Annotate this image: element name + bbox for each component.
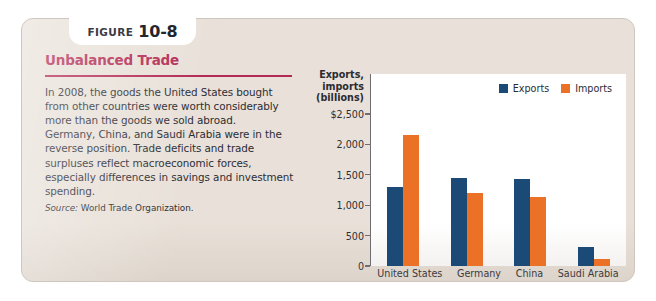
y-tick-mark-2 bbox=[365, 174, 370, 175]
bar-group bbox=[451, 178, 483, 266]
x-tick-label-3: Saudi Arabia bbox=[558, 268, 619, 279]
bar-exports bbox=[578, 247, 594, 266]
figure-tab-number: 10-8 bbox=[138, 22, 177, 41]
title-divider bbox=[45, 75, 292, 77]
bar-exports bbox=[387, 187, 403, 266]
x-tick-label-0: United States bbox=[377, 268, 442, 279]
y-tick-label-1: 2,000 bbox=[308, 139, 364, 150]
bar-imports bbox=[467, 193, 483, 266]
y-tick-mark-1 bbox=[365, 144, 370, 145]
y-axis-title-line-1: imports bbox=[308, 81, 364, 93]
bar-exports bbox=[451, 178, 467, 266]
y-tick-mark-3 bbox=[365, 205, 370, 206]
y-axis-line bbox=[370, 74, 371, 266]
y-axis-title: Exports,imports(billions) bbox=[308, 69, 364, 104]
legend-swatch-imports bbox=[561, 84, 570, 93]
bar-exports bbox=[514, 179, 530, 266]
bar-group bbox=[578, 247, 610, 266]
bar-imports bbox=[530, 197, 546, 266]
bar-chart: Exports,imports(billions) $2,5002,0001,5… bbox=[308, 52, 628, 276]
bar-group bbox=[514, 179, 546, 266]
figure-title: Unbalanced Trade bbox=[45, 52, 298, 68]
y-axis-tick-labels: $2,5002,0001,5001,0005000 bbox=[308, 114, 364, 266]
figure-tab-word: FIGURE bbox=[87, 25, 133, 37]
body-paragraph-2: Germany, China, and Saudi Arabia were in… bbox=[45, 127, 294, 198]
legend-swatch-exports bbox=[499, 84, 508, 93]
source-line: Source: World Trade Organization. bbox=[45, 203, 298, 213]
figure-body-text: In 2008, the goods the United States bou… bbox=[45, 85, 294, 199]
y-tick-label-5: 0 bbox=[308, 261, 364, 272]
y-axis-title-line-2: (billions) bbox=[308, 92, 364, 104]
x-tick-label-1: Germany bbox=[457, 268, 501, 279]
legend-label-imports: Imports bbox=[575, 83, 612, 94]
y-tick-label-0: $2,500 bbox=[308, 109, 364, 120]
y-axis-title-line-0: Exports, bbox=[308, 69, 364, 81]
y-tick-label-3: 1,000 bbox=[308, 200, 364, 211]
source-label: Source: bbox=[45, 203, 78, 213]
bar-groups bbox=[371, 114, 626, 266]
plot-area: ExportsImports bbox=[370, 74, 626, 266]
figure-text-column: Unbalanced Trade In 2008, the goods the … bbox=[45, 52, 298, 213]
bar-imports bbox=[594, 259, 610, 266]
figure-number-tab: FIGURE 10-8 bbox=[69, 18, 196, 45]
chart-legend: ExportsImports bbox=[499, 83, 612, 94]
y-tick-label-2: 1,500 bbox=[308, 169, 364, 180]
bar-group bbox=[387, 135, 419, 266]
y-tick-mark-0 bbox=[365, 113, 370, 114]
legend-item-exports: Exports bbox=[499, 83, 549, 94]
legend-label-exports: Exports bbox=[513, 83, 549, 94]
bar-imports bbox=[403, 135, 419, 266]
x-axis-tick-labels: United StatesGermanyChinaSaudi Arabia bbox=[370, 268, 626, 279]
y-tick-mark-5 bbox=[365, 265, 370, 266]
legend-item-imports: Imports bbox=[561, 83, 612, 94]
source-text: World Trade Organization. bbox=[81, 203, 194, 213]
figure-card: FIGURE 10-8 Unbalanced Trade In 2008, th… bbox=[21, 18, 635, 282]
body-paragraph-1: In 2008, the goods the United States bou… bbox=[45, 85, 294, 128]
x-tick-label-2: China bbox=[516, 268, 543, 279]
y-tick-mark-4 bbox=[365, 235, 370, 236]
y-tick-label-4: 500 bbox=[308, 230, 364, 241]
